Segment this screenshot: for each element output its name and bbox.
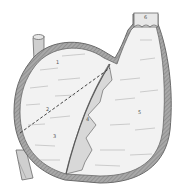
label-3: 3 (53, 134, 56, 139)
label-1: 1 (56, 60, 59, 65)
label-4: 4 (86, 117, 89, 122)
label-6: 6 (144, 15, 147, 20)
stomach-illustration (0, 0, 182, 193)
label-5: 5 (138, 110, 141, 115)
stomach-diagram: 1 2 3 4 5 6 (0, 0, 182, 193)
label-2: 2 (46, 107, 49, 112)
